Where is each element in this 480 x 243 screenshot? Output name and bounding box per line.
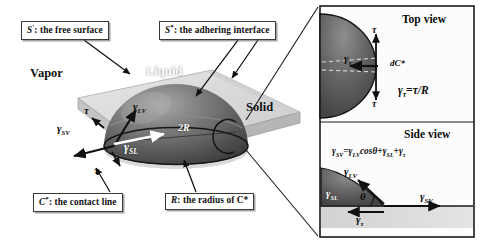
callout-radius[interactable]: R: the radius of C* — [165, 193, 254, 210]
side-view-title: Side view — [404, 128, 450, 140]
leader-free-surface — [84, 40, 130, 74]
phase-label-liquid: Liquid — [146, 64, 182, 79]
eq-t4-sub: τ — [403, 152, 406, 158]
top-view-relation-rhs: =τ/R — [406, 84, 429, 96]
top-view-relation: γτ=τ/R — [398, 84, 429, 99]
callout-adhering-interface[interactable]: S*: the adhering interface — [159, 21, 276, 40]
figure-canvas: S': the free surface S*: the adhering in… — [0, 0, 480, 243]
inset-panel — [320, 6, 474, 237]
label-diameter-2R: 2R — [178, 122, 190, 133]
label-gamma-LV: γLV — [133, 100, 146, 114]
callout-free-surface-text: : the free surface — [34, 25, 102, 35]
eq-cos: cosθ — [360, 146, 377, 156]
label-gamma-SL: γSL — [124, 140, 138, 156]
label-gamma-SV-sub: SV — [62, 129, 70, 136]
top-view-arc-element-label: dC* — [390, 58, 405, 68]
top-view-title: Top view — [402, 13, 446, 25]
side-view-gamma-SL-label: γSL — [326, 188, 338, 201]
callout-radius-text: : the radius of C* — [177, 195, 248, 205]
side-gamma-SV-sub: SV — [425, 197, 433, 204]
label-gamma-SV: γSV — [57, 122, 70, 136]
label-tau-upper: τ — [84, 104, 89, 116]
top-view-tau-lower-label: τ — [372, 98, 376, 109]
eq-t3-sub: SL — [387, 152, 394, 158]
callout-contact-line[interactable]: C*: the contact line — [33, 193, 123, 212]
side-gamma-SL-sub: SL — [330, 194, 338, 201]
side-gamma-LV-sub: LV — [349, 172, 357, 179]
side-view-equation: γSV=γLVcosθ+γSL+γτ — [332, 146, 406, 158]
callout-adhering-text: : the adhering interface — [174, 25, 270, 35]
label-gamma-SL-sub: SL — [129, 147, 138, 156]
side-view-gamma-tau-label: γτ — [356, 213, 364, 227]
phase-label-solid: Solid — [246, 100, 273, 115]
callout-free-surface[interactable]: S': the free surface — [21, 21, 109, 40]
top-view-gamma-tau-sub: τ — [349, 59, 352, 66]
phase-label-vapor: Vapor — [30, 66, 63, 81]
side-view-theta-label: θ — [360, 190, 366, 202]
eq-t2-sub: LV — [353, 152, 360, 158]
top-view-gamma-tau-label: γτ — [344, 52, 352, 66]
side-gamma-tau-sub: τ — [361, 220, 364, 227]
side-view-gamma-LV-label: γLV — [344, 165, 357, 179]
callout-contact-line-text: : the contact line — [49, 197, 117, 207]
side-view-gamma-SV-label: γSV — [420, 190, 433, 204]
label-tau-lower: τ — [94, 164, 99, 176]
top-view-tau-upper-label: τ — [372, 24, 376, 35]
label-gamma-LV-sub: LV — [138, 107, 146, 114]
leader-adhering-2 — [232, 40, 258, 78]
